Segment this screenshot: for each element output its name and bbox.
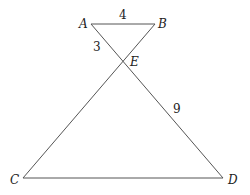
length-label-ab: 4 xyxy=(119,8,127,22)
point-label-e: E xyxy=(129,55,139,69)
length-label-ae: 3 xyxy=(93,40,101,54)
point-label-b: B xyxy=(157,17,167,31)
length-label-ed: 9 xyxy=(173,102,181,116)
point-label-c: C xyxy=(10,173,19,187)
triangle-diagram: A B E C D 4 3 9 xyxy=(0,0,250,195)
point-label-d: D xyxy=(227,173,238,187)
segment-ad xyxy=(91,24,223,178)
segment-bc xyxy=(23,24,155,178)
point-label-a: A xyxy=(78,17,88,31)
